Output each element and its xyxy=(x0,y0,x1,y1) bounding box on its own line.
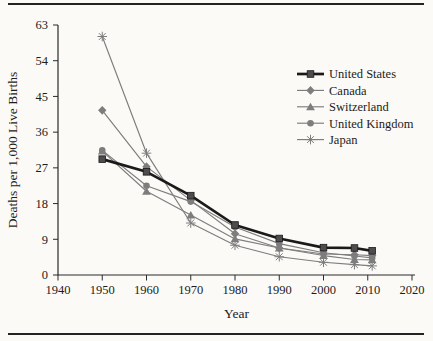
asterisk-marker-icon xyxy=(274,252,284,262)
x-tick-label: 1990 xyxy=(267,283,292,297)
asterisk-marker-icon xyxy=(186,218,196,228)
legend-label: United States xyxy=(329,67,396,81)
bottom-rule xyxy=(8,333,424,335)
y-tick-label: 27 xyxy=(36,161,49,175)
legend-item-switzerland xyxy=(297,103,324,111)
y-tick-label: 63 xyxy=(36,18,49,32)
y-tick-label: 0 xyxy=(42,268,48,282)
legend-item-canada xyxy=(297,86,324,95)
x-tick-label: 1950 xyxy=(90,283,115,297)
y-tick-label: 18 xyxy=(36,197,49,211)
asterisk-marker-icon xyxy=(142,148,152,158)
legend-item-japan xyxy=(297,135,324,145)
y-tick-label: 36 xyxy=(36,125,49,139)
legend-item-united-states xyxy=(297,71,324,78)
circle-marker-icon xyxy=(307,120,314,127)
square-marker-icon xyxy=(187,192,194,199)
x-tick-label: 2010 xyxy=(355,283,380,297)
asterisk-marker-icon xyxy=(306,135,316,145)
square-marker-icon xyxy=(320,244,327,251)
y-tick-label: 54 xyxy=(36,54,49,68)
x-tick-label: 1940 xyxy=(46,283,71,297)
y-axis-title: Deaths per 1,000 Live Births xyxy=(5,72,20,228)
legend-label: Japan xyxy=(329,133,358,147)
x-tick-label: 1970 xyxy=(178,283,203,297)
infant-mortality-line-chart: 0918273645546319401950196019701980199020… xyxy=(0,0,433,341)
triangle-marker-icon xyxy=(186,211,195,219)
square-marker-icon xyxy=(276,235,283,242)
square-marker-icon xyxy=(351,245,358,252)
square-marker-icon xyxy=(232,222,239,229)
asterisk-marker-icon xyxy=(97,32,107,42)
square-marker-icon xyxy=(143,169,150,176)
x-tick-label: 2020 xyxy=(400,283,425,297)
square-marker-icon xyxy=(307,71,314,78)
x-tick-label: 2000 xyxy=(311,283,336,297)
diamond-marker-icon xyxy=(306,86,314,95)
legend-label: Switzerland xyxy=(329,100,389,114)
legend-item-united-kingdom xyxy=(297,120,324,127)
legend xyxy=(297,71,324,145)
y-tick-label: 9 xyxy=(42,233,48,247)
x-tick-label: 1960 xyxy=(134,283,159,297)
y-tick-label: 45 xyxy=(36,90,49,104)
x-axis-title: Year xyxy=(224,306,249,321)
series-united-kingdom xyxy=(99,147,376,261)
series-line xyxy=(102,159,372,251)
square-marker-icon xyxy=(369,247,376,254)
legend-label: Canada xyxy=(329,84,367,98)
legend-label: United Kingdom xyxy=(329,117,414,131)
x-tick-label: 1980 xyxy=(223,283,248,297)
square-marker-icon xyxy=(99,156,106,163)
figure: 0918273645546319401950196019701980199020… xyxy=(0,0,433,341)
